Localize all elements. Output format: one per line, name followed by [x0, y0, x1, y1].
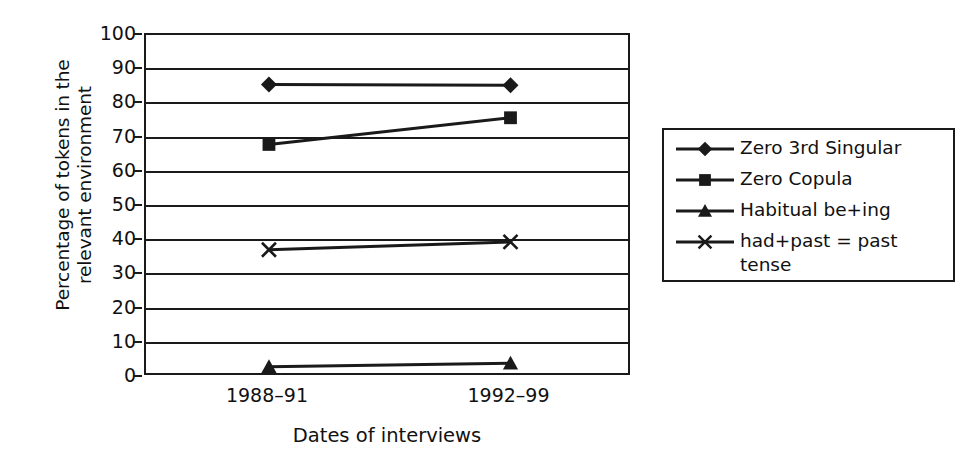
y-axis-tick-mark — [133, 170, 142, 172]
legend-label: Zero 3rd Singular — [736, 136, 901, 160]
y-axis-tick-label: 0 — [88, 366, 136, 385]
y-axis-tick-label: 90 — [88, 58, 136, 77]
diamond-marker-icon — [503, 77, 519, 93]
y-axis-tick-label: 60 — [88, 161, 136, 180]
gridline — [146, 273, 628, 275]
diamond-marker-icon — [698, 142, 713, 157]
y-axis-tick-mark — [133, 307, 142, 309]
legend-swatch — [674, 168, 736, 192]
legend-swatch — [674, 230, 736, 254]
legend-item[interactable]: Zero 3rd Singular — [664, 137, 953, 168]
x-axis-tick-label: 1988–91 — [226, 386, 308, 405]
y-axis-tick-label: 10 — [88, 332, 136, 351]
x-axis-title: Dates of interviews — [144, 424, 630, 447]
y-axis-tick-label: 20 — [88, 298, 136, 317]
series-line — [269, 85, 511, 86]
y-axis-tick-mark — [133, 238, 142, 240]
square-marker-icon — [263, 138, 276, 151]
chart-figure: Percentage of tokens in the relevant env… — [0, 0, 966, 462]
legend-item[interactable]: Zero Copula — [664, 168, 953, 199]
gridline — [146, 137, 628, 139]
y-axis-tick-mark — [133, 204, 142, 206]
y-axis-tick-mark — [133, 101, 142, 103]
y-axis-tick-label: 80 — [88, 92, 136, 111]
chart-legend: Zero 3rd SingularZero CopulaHabitual be+… — [662, 128, 955, 282]
gridline — [146, 102, 628, 104]
x-axis-tick-label: 1992–99 — [467, 386, 549, 405]
y-axis-tick-label: 40 — [88, 229, 136, 248]
y-axis-tick-labels: 1009080706050403020100 — [86, 0, 136, 462]
legend-swatch — [674, 199, 736, 223]
legend-label: had+past = past tense — [736, 229, 898, 276]
y-axis-tick-label: 70 — [88, 127, 136, 146]
series-line — [269, 118, 511, 145]
y-axis-tick-mark — [133, 272, 142, 274]
square-marker-icon — [699, 174, 711, 186]
y-axis-tick-label: 50 — [88, 195, 136, 214]
square-marker-icon — [504, 111, 517, 124]
legend-label: Zero Copula — [736, 167, 853, 191]
y-axis-tick-mark — [133, 375, 142, 377]
data-series — [261, 77, 519, 94]
series-line — [269, 242, 511, 250]
series-line — [269, 363, 511, 366]
y-axis-tick-mark — [133, 136, 142, 138]
y-axis-tick-mark — [133, 67, 142, 69]
plot-area — [144, 33, 630, 375]
gridline — [146, 342, 628, 344]
gridline — [146, 171, 628, 173]
data-series — [261, 356, 518, 373]
y-axis-tick-label: 30 — [88, 263, 136, 282]
gridline — [146, 68, 628, 70]
diamond-marker-icon — [261, 77, 277, 93]
legend-item[interactable]: had+past = past tense — [664, 230, 953, 276]
legend-swatch — [674, 137, 736, 161]
gridline — [146, 308, 628, 310]
gridline — [146, 205, 628, 207]
legend-label: Habitual be+ing — [736, 198, 891, 222]
y-axis-tick-mark — [133, 33, 142, 35]
y-axis-tick-mark — [133, 341, 142, 343]
legend-item[interactable]: Habitual be+ing — [664, 199, 953, 230]
y-axis-tick-label: 100 — [88, 24, 136, 43]
data-series — [263, 111, 517, 150]
gridline — [146, 239, 628, 241]
data-series — [262, 235, 518, 257]
